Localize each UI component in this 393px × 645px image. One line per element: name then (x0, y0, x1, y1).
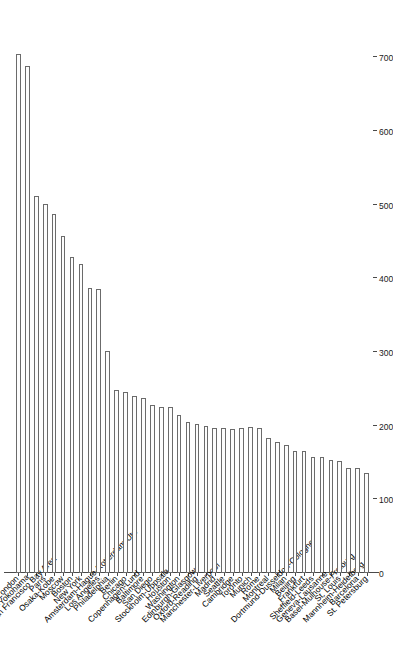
bar (212, 428, 217, 573)
bar (355, 468, 360, 573)
bar (25, 66, 30, 573)
bar (34, 196, 39, 573)
bar (320, 457, 325, 573)
bar (329, 460, 334, 573)
bar (159, 407, 164, 573)
bar (257, 428, 262, 573)
value-axis-tick-label: 10000 (379, 495, 393, 505)
bar (248, 427, 253, 573)
bar (204, 426, 209, 573)
bar (43, 204, 48, 573)
bar (79, 264, 84, 573)
bar (96, 289, 101, 573)
bar (293, 451, 298, 573)
value-axis-tick-label: 50000 (379, 201, 393, 211)
chart-figure: 010000200003000040000500006000070000Pape… (0, 0, 393, 645)
bar (150, 405, 155, 573)
bar (16, 54, 21, 573)
bar (195, 424, 200, 573)
value-axis-tick-label: 60000 (379, 127, 393, 137)
bar (364, 473, 369, 573)
value-axis-tick-label: 40000 (379, 274, 393, 284)
value-axis-tick (373, 572, 377, 573)
bar (266, 438, 271, 573)
bar (52, 214, 57, 573)
value-axis-tick (373, 351, 377, 352)
bar (186, 422, 191, 573)
value-axis-tick (373, 425, 377, 426)
bar (114, 390, 119, 573)
bar (168, 407, 173, 573)
bar (132, 396, 137, 573)
value-axis-tick (373, 277, 377, 278)
chart-rotation-wrapper: 010000200003000040000500006000070000Pape… (0, 0, 393, 645)
bar (239, 428, 244, 573)
bar (311, 457, 316, 573)
bar (88, 288, 93, 573)
bar (275, 442, 280, 573)
bar (302, 451, 307, 573)
value-axis-tick-label: 20000 (379, 422, 393, 432)
value-axis-tick (373, 130, 377, 131)
value-axis-tick (373, 204, 377, 205)
bar (346, 468, 351, 573)
bar (230, 429, 235, 573)
bar (177, 415, 182, 573)
value-axis-tick (373, 56, 377, 57)
value-axis-tick-label: 70000 (379, 53, 393, 63)
bar (337, 461, 342, 573)
category-axis-tick (367, 573, 368, 576)
bar (70, 257, 75, 573)
value-axis-tick (373, 498, 377, 499)
value-axis-tick-label: 30000 (379, 348, 393, 358)
bar (105, 351, 110, 573)
value-axis-tick-label: 0 (379, 569, 384, 579)
bar (141, 398, 146, 573)
bar (221, 428, 226, 573)
bar (123, 392, 128, 573)
bar-chart-plot: 010000200003000040000500006000070000Pape… (0, 0, 393, 645)
bar (284, 445, 289, 573)
bar (61, 236, 66, 573)
